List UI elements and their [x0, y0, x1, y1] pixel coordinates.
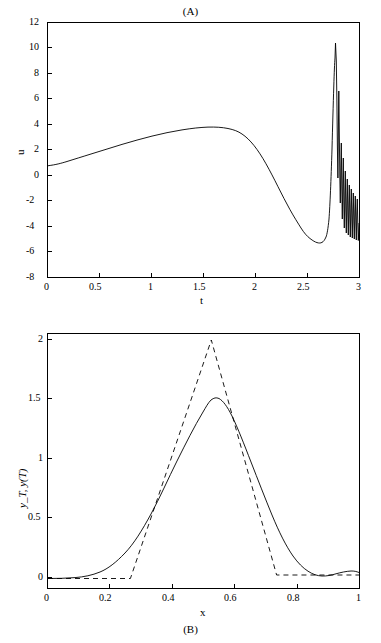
panel-a-ytick-label: 0	[34, 169, 39, 180]
panel-a-xtick	[47, 273, 48, 278]
panel-a-ytick	[47, 73, 52, 74]
panel-a-ytick-label: 8	[34, 67, 39, 78]
panel-a-ytick	[47, 200, 52, 201]
panel-a-ytick-label: -4	[26, 220, 34, 231]
panel-b-yaxis-label: y_T, y(T)	[16, 468, 28, 508]
panel-a-xaxis-label: t	[200, 294, 203, 306]
panel-a-xtick-label: 0	[44, 281, 49, 292]
panel-a-ytick	[47, 98, 52, 99]
panel-b-curve-layer	[48, 334, 359, 588]
panel-b-title: (B)	[0, 623, 381, 635]
panel-a-xtick	[151, 273, 152, 278]
panel-a-ytick	[47, 47, 52, 48]
panel-b-xtick	[47, 584, 48, 589]
panel-a-ytick	[47, 175, 52, 176]
panel-a-ytick-label: -2	[26, 194, 34, 205]
panel-b-ytick-label: 0.5	[28, 511, 41, 522]
panel-a-xtick-label: 2.5	[297, 281, 310, 292]
panel-b-xtick	[234, 584, 235, 589]
panel-a-curve-layer	[48, 23, 359, 277]
panel-a-ytick	[47, 22, 52, 23]
panel-a-ytick-label: 12	[29, 16, 39, 27]
panel-b-xtick	[109, 584, 110, 589]
panel-a-yaxis-label: u	[14, 150, 26, 156]
panel-a-ytick-label: 4	[34, 118, 39, 129]
panel-a-ytick-label: -6	[26, 245, 34, 256]
panel-b-ytick	[47, 398, 52, 399]
panel-b-yaxis-label-text: y_T, y(T)	[16, 468, 28, 508]
panel-b-ytick	[47, 577, 52, 578]
panel-a-xtick-label: 0.5	[89, 281, 102, 292]
panel-a-ytick-label: 2	[34, 143, 39, 154]
panel-a-xtick-label: 1	[148, 281, 153, 292]
panel-a-xtick	[255, 273, 256, 278]
panel-a-xtick	[203, 273, 204, 278]
panel-b-ytick-label: 0	[38, 571, 43, 582]
panel-b-xaxis-label: x	[200, 606, 206, 618]
panel-b-xtick	[172, 584, 173, 589]
panel-b-xtick-label: 0.6	[224, 592, 237, 603]
figure-page: (A) -8 -6 -4 -2 0 2 4 6 8 10 12	[0, 0, 381, 643]
panel-b-xtick	[359, 584, 360, 589]
panel-b-ytick	[47, 458, 52, 459]
panel-b-xtick-label: 1	[356, 592, 361, 603]
panel-a-xtick	[359, 273, 360, 278]
panel-a-xtick	[99, 273, 100, 278]
panel-a-ytick-label: 6	[34, 92, 39, 103]
panel-b-ytick-label: 1.5	[28, 392, 41, 403]
panel-a-xtick-label: 3	[356, 281, 361, 292]
panel-a-ytick	[47, 149, 52, 150]
panel-b-ytick-label: 1	[38, 452, 43, 463]
panel-a: (A) -8 -6 -4 -2 0 2 4 6 8 10 12	[0, 0, 381, 310]
panel-b: 0 0.5 1 1.5 2 0 0.2 0.4 0.6 0.8 1 x y_T,…	[0, 323, 381, 643]
panel-b-ytick-label: 2	[38, 333, 43, 344]
panel-b-xtick	[297, 584, 298, 589]
panel-b-xtick-label: 0.4	[162, 592, 175, 603]
panel-a-ytick	[47, 124, 52, 125]
panel-a-series-u	[48, 43, 359, 243]
panel-a-xtick	[307, 273, 308, 278]
panel-b-plot-area	[47, 333, 360, 589]
panel-b-ytick	[47, 517, 52, 518]
panel-b-xtick-label: 0.8	[287, 592, 300, 603]
panel-b-xtick-label: 0	[44, 592, 49, 603]
panel-a-plot-area	[47, 22, 360, 278]
panel-b-xtick-label: 0.2	[99, 592, 112, 603]
panel-a-ytick	[47, 226, 52, 227]
panel-b-ytick	[47, 339, 52, 340]
panel-a-ytick-label: -8	[26, 271, 34, 282]
panel-a-xtick-label: 1.5	[193, 281, 206, 292]
panel-b-series-target	[48, 340, 359, 579]
panel-a-xtick-label: 2	[252, 281, 257, 292]
panel-a-ytick	[47, 251, 52, 252]
panel-b-series-achieved	[48, 398, 359, 579]
panel-a-ytick-label: 10	[29, 41, 39, 52]
panel-a-title: (A)	[0, 5, 381, 17]
